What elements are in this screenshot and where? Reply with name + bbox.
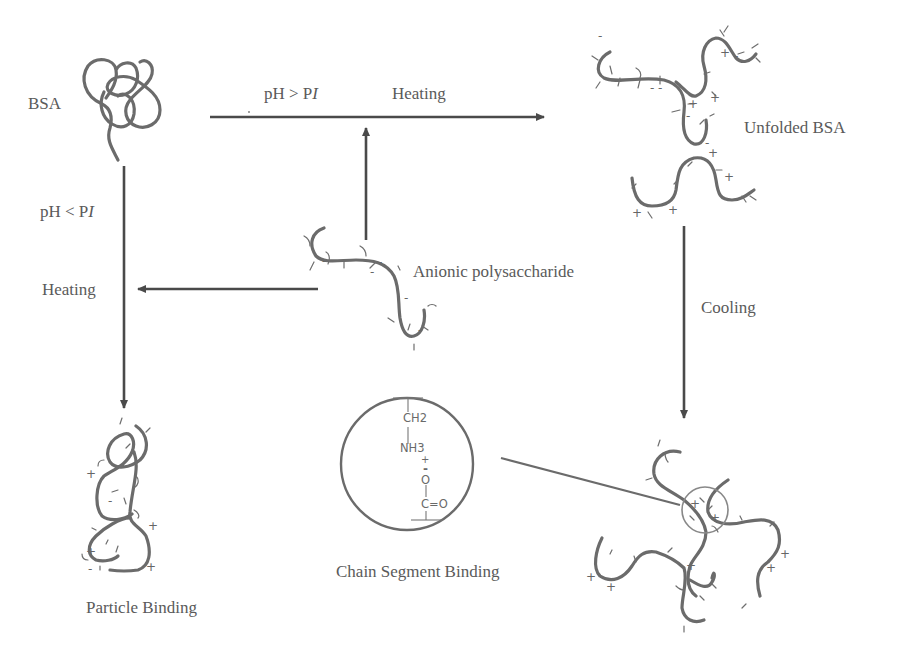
- ph-lt-prefix: pH < P: [40, 202, 88, 221]
- anionic-polysaccharide-icon: - - - - -: [304, 228, 436, 350]
- svg-text:+: +: [606, 580, 616, 594]
- svg-text:+: +: [146, 560, 156, 574]
- label-particle-binding: Particle Binding: [86, 598, 197, 618]
- label-heating-left: Heating: [42, 280, 96, 300]
- svg-text:-: -: [734, 49, 738, 63]
- label-bsa: BSA: [28, 94, 61, 114]
- svg-text:+: +: [766, 561, 776, 575]
- svg-text:-: -: [378, 255, 382, 269]
- svg-text:+: +: [668, 203, 678, 217]
- svg-text:+: +: [686, 559, 696, 573]
- ph-lt-italic: I: [88, 202, 94, 221]
- chain-segment-complex-icon: + + + + + + +: [586, 440, 790, 632]
- bsa-coil-icon: [84, 60, 160, 160]
- chem-nh3: NH3: [400, 441, 425, 455]
- unfolded-bsa-icon: - - + - + + - - + + + + -: [592, 26, 760, 220]
- svg-text:-: -: [404, 291, 408, 305]
- particle-binding-icon: + + + + - -: [82, 418, 158, 576]
- label-ph-greater-than-pi: pH > PI: [264, 84, 318, 104]
- svg-text:-: -: [658, 81, 662, 95]
- svg-text:-: -: [108, 494, 112, 508]
- svg-text:+: +: [724, 170, 734, 184]
- ph-gt-italic: I: [312, 84, 318, 103]
- svg-text:-: -: [598, 29, 602, 43]
- svg-text:+: +: [708, 146, 718, 160]
- svg-text:+: +: [710, 511, 720, 525]
- svg-text:+: +: [710, 91, 720, 105]
- svg-text:+: +: [86, 467, 96, 481]
- svg-text:+: +: [780, 547, 790, 561]
- svg-text:+: +: [148, 519, 158, 533]
- label-heating-top: Heating: [392, 84, 446, 104]
- svg-text:-: -: [370, 265, 374, 279]
- svg-text:+: +: [86, 545, 96, 559]
- label-ph-less-than-pi: pH < PI: [40, 202, 94, 222]
- label-unfolded-bsa: Unfolded BSA: [744, 118, 846, 138]
- ph-gt-prefix: pH > P: [264, 84, 312, 103]
- label-anionic-polysaccharide: Anionic polysaccharide: [413, 262, 574, 282]
- chem-ch2: CH2: [403, 411, 427, 425]
- process-diagram: - - + - + + - - + + + + - - - - - - + + …: [0, 0, 898, 654]
- svg-text:-: -: [650, 81, 654, 95]
- svg-text:+: +: [720, 46, 730, 60]
- svg-text:+: +: [586, 570, 596, 584]
- label-cooling: Cooling: [701, 298, 756, 318]
- chem-carbonyl: C=O: [421, 497, 448, 511]
- svg-text:-: -: [322, 254, 326, 268]
- svg-text:+: +: [632, 206, 642, 220]
- chem-oxygen: O: [421, 473, 430, 487]
- svg-text:-: -: [686, 109, 690, 123]
- svg-text:+: +: [690, 497, 700, 511]
- svg-text:-: -: [88, 562, 92, 576]
- label-chain-segment-binding: Chain Segment Binding: [336, 562, 499, 582]
- svg-text:-: -: [418, 323, 422, 337]
